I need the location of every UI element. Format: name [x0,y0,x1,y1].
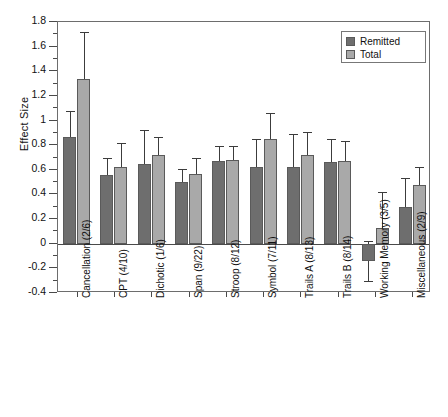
error-bar-cap [215,146,224,147]
bar-remitted [250,167,263,243]
error-bar [219,146,220,161]
y-tick-mark [49,95,57,96]
bar-total [226,160,239,244]
y-tick-label: -0.2 [12,260,46,272]
x-axis-label: Working Memory (3/5) [379,199,390,298]
error-bar [158,137,159,155]
error-bar [107,158,108,175]
figure-container: Effect Size 1.81.61.41.210.80.60.40.20-0… [0,0,448,417]
y-tick-mark [49,70,57,71]
y-tick-mark [49,46,57,47]
y-tick-mark [49,193,57,194]
legend-swatch-remitted [346,37,355,46]
error-bar-cap [252,139,261,140]
bar-total [338,161,351,244]
error-bar [256,139,257,167]
bar-remitted [324,162,337,243]
error-bar-cap [66,111,75,112]
error-bar [331,139,332,162]
error-bar [196,158,197,174]
x-axis-label: Span (9/22) [193,246,204,298]
x-axis-label: Dichotic (1/6) [155,239,166,298]
bar-remitted [100,175,113,244]
y-tick-label: 1.2 [12,88,46,100]
y-tick-label: 1.4 [12,63,46,75]
x-axis-label: Cancellation (2/6) [81,220,92,298]
error-bar-cap [378,192,387,193]
error-bar [293,134,294,167]
error-bar [405,178,406,206]
y-tick-mark [49,120,57,121]
error-bar-cap [364,281,373,282]
x-tick-mark [226,292,227,297]
bar-total [189,174,202,244]
error-bar [368,261,369,281]
y-tick-mark [49,292,57,293]
bar-total [264,139,277,244]
error-bar-cap [117,143,126,144]
error-bar-cap [364,241,373,242]
y-tick-mark [49,267,57,268]
error-bar-cap [103,158,112,159]
legend: Remitted Total [341,31,426,63]
y-tick-label: -0.4 [12,285,46,297]
bar-remitted [399,207,412,244]
legend-label-remitted: Remitted [360,36,400,47]
legend-swatch-total [346,50,355,59]
y-tick-label: 0.2 [12,211,46,223]
error-bar-cap [192,158,201,159]
error-bar-cap [289,134,298,135]
error-bar [121,143,122,168]
y-tick-label: 0 [12,236,46,248]
bar-remitted [138,164,151,244]
x-tick-mark [151,292,152,297]
x-tick-mark [375,292,376,297]
x-axis-label: Trails B (8/14) [342,236,353,298]
bar-total [152,155,165,244]
error-bar-cap [401,178,410,179]
error-bar [307,132,308,155]
error-bar [233,146,234,160]
y-tick-label: 1.6 [12,39,46,51]
y-tick-label: 0.6 [12,162,46,174]
x-tick-mark [189,292,190,297]
error-bar [270,113,271,139]
bar-remitted [362,244,375,261]
error-bar [419,167,420,184]
x-axis-label: Stroop (8/12) [230,240,241,298]
bar-total [114,167,127,243]
y-tick-mark [49,21,57,22]
error-bar-cap [303,132,312,133]
error-bar [70,111,71,137]
y-tick-label: 1 [12,113,46,125]
x-tick-mark [263,292,264,297]
error-bar-cap [229,146,238,147]
error-bar [84,32,85,79]
x-axis-label: Trails A (8/13) [304,237,315,298]
legend-item-total: Total [346,48,421,61]
error-bar-cap [266,113,275,114]
y-tick-label: 1.8 [12,14,46,26]
error-bar [144,130,145,163]
bar-remitted [175,182,188,244]
x-axis-label: Symbol (7/11) [267,236,278,298]
y-tick-label: 0.8 [12,137,46,149]
y-tick-mark [49,243,57,244]
bar-remitted [287,167,300,243]
y-tick-label: 0.4 [12,186,46,198]
x-tick-mark [300,292,301,297]
error-bar-cap [341,141,350,142]
error-bar-cap [178,169,187,170]
error-bar-cap [154,137,163,138]
x-tick-mark [412,292,413,297]
error-bar-cap [415,167,424,168]
legend-item-remitted: Remitted [346,35,421,48]
y-tick-mark [49,169,57,170]
x-axis-label: Miscellaneous (2/9) [416,211,427,298]
bar-remitted [212,161,225,244]
y-tick-mark [49,144,57,145]
error-bar [345,141,346,161]
error-bar-cap [80,32,89,33]
x-tick-mark [114,292,115,297]
bar-remitted [63,137,76,244]
